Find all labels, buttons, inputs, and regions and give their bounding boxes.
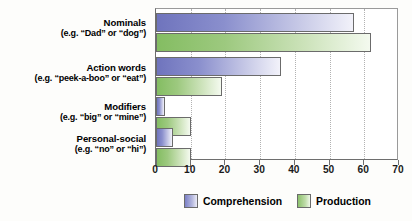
legend-swatch-production-icon: [297, 194, 311, 208]
category-label-line1: Modifiers: [60, 101, 146, 112]
category-label-nominals: Nominals (e.g. “Dad” or “dog”): [61, 17, 146, 39]
bar-action-words-production: [156, 77, 222, 96]
legend-label-comprehension: Comprehension: [203, 196, 282, 207]
legend-swatch-comprehension-icon: [184, 194, 198, 208]
bar-modifiers-comprehension: [156, 97, 165, 116]
category-label-line1: Nominals: [61, 17, 146, 28]
chart-legend: Comprehension Production: [184, 192, 380, 210]
category-label-line1: Action words: [35, 62, 146, 73]
legend-item-production: Production: [297, 194, 371, 208]
legend-label-production: Production: [316, 196, 371, 207]
x-tick-label-40: 40: [288, 164, 299, 175]
x-tick-label-70: 70: [392, 164, 403, 175]
bar-chart: Nominals (e.g. “Dad” or “dog”) Action wo…: [0, 0, 412, 221]
category-label-line2: (e.g. “big” or “mine”): [60, 112, 146, 123]
plot-area: [155, 8, 398, 160]
legend-item-comprehension: Comprehension: [184, 194, 282, 208]
category-label-line2: (e.g. “no” or “hi”): [75, 144, 146, 155]
category-axis-labels: Nominals (e.g. “Dad” or “dog”) Action wo…: [0, 8, 150, 160]
category-label-personal-social: Personal-social (e.g. “no” or “hi”): [75, 133, 146, 155]
category-label-line2: (e.g. “peek-a-boo” or “eat”): [35, 73, 146, 84]
category-label-action-words: Action words (e.g. “peek-a-boo” or “eat”…: [35, 62, 146, 84]
bar-personal-social-comprehension: [156, 128, 173, 147]
x-tick-label-50: 50: [323, 164, 334, 175]
gridline-60: [364, 9, 365, 159]
category-label-line1: Personal-social: [75, 133, 146, 144]
bar-action-words-comprehension: [156, 57, 281, 76]
x-tick-label-10: 10: [184, 164, 195, 175]
x-axis-tick-labels: 010203040506070: [0, 164, 412, 180]
x-tick-label-30: 30: [253, 164, 264, 175]
category-label-line2: (e.g. “Dad” or “dog”): [61, 28, 146, 39]
x-tick-label-0: 0: [152, 164, 158, 175]
category-label-modifiers: Modifiers (e.g. “big” or “mine”): [60, 101, 146, 123]
x-tick-label-60: 60: [358, 164, 369, 175]
bar-nominals-comprehension: [156, 13, 354, 32]
x-tick-label-20: 20: [219, 164, 230, 175]
bar-nominals-production: [156, 33, 371, 52]
